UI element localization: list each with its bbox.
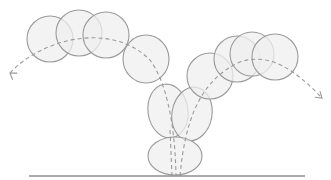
bouncing-ball-diagram	[0, 0, 331, 180]
ball-positions	[27, 10, 298, 175]
diagram-canvas	[0, 0, 331, 180]
ball-3	[83, 12, 129, 58]
left-arrow-icon	[8, 70, 18, 80]
ball-4	[123, 35, 169, 83]
ball-11	[252, 34, 298, 80]
